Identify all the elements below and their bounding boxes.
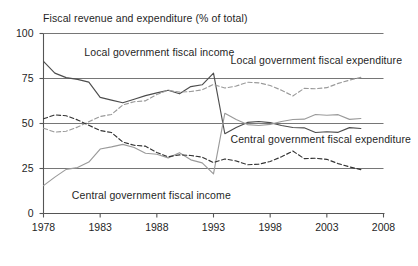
series-annotation-3: Central government fiscal income [72,189,231,201]
series-line-2 [44,113,361,185]
x-tick-label-1988: 1988 [137,221,177,233]
x-tick-label-2008: 2008 [364,221,404,233]
y-tick-label-0: 0 [4,207,34,219]
chart-figure: Fiscal revenue and expenditure (% of tot… [0,0,418,266]
y-tick-label-100: 100 [4,27,34,39]
series-annotation-1: Local government fiscal expenditure [231,54,403,66]
y-tick-label-50: 50 [4,117,34,129]
series-line-0 [44,61,361,133]
series-annotation-2: Central government fiscal expenditure [231,133,412,145]
y-tick-label-25: 25 [4,162,34,174]
x-tick-label-1998: 1998 [250,221,290,233]
x-tick-label-1993: 1993 [194,221,234,233]
y-tick-label-75: 75 [4,72,34,84]
x-tick-label-1983: 1983 [80,221,120,233]
x-tick-label-2003: 2003 [307,221,347,233]
series-annotation-0: Local government fiscal income [84,46,234,58]
x-tick-label-1978: 1978 [24,221,64,233]
